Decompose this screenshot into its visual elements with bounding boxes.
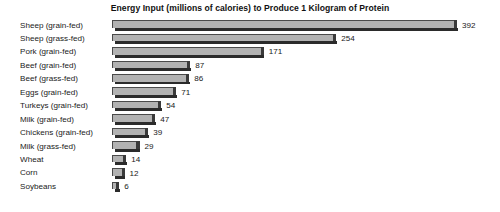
value-label: 29 [144,142,153,152]
bar-shadow [115,189,120,192]
bar-end-cap [454,20,457,28]
category-label: Eggs (grain-fed) [20,87,78,98]
bar-shadow [115,135,149,138]
chart-row: Chickens (grain-fed)39 [0,127,500,140]
value-label: 71 [181,88,190,98]
chart-row: Milk (grass-fed)29 [0,140,500,153]
value-label: 87 [195,61,204,71]
bar-end-cap [116,182,119,190]
bar [112,128,149,139]
chart-row: Soybeans6 [0,180,500,193]
chart-row: Corn12 [0,167,500,180]
bar [112,74,190,85]
value-label: 392 [462,21,476,31]
bar-shadow [115,82,190,85]
category-label: Wheat [20,154,43,165]
bar-face [112,101,159,109]
category-label: Beef (grain-fed) [20,60,76,71]
category-label: Chickens (grain-fed) [20,127,93,138]
chart-row: Turkeys (grain-fed)54 [0,100,500,113]
value-label: 254 [341,34,355,44]
value-label: 6 [124,182,129,192]
category-label: Turkeys (grain-fed) [20,100,88,111]
bar-end-cap [152,114,155,122]
bar-end-cap [333,34,336,42]
bar-shadow [115,149,140,152]
bar-end-cap [123,155,126,163]
bar-face [112,34,334,42]
bar [112,87,177,98]
chart-row: Eggs (grain-fed)71 [0,86,500,99]
bar-shadow [115,55,265,58]
bar-face [112,20,455,28]
bar-shadow [115,41,337,44]
chart-row: Sheep (grain-fed)392 [0,19,500,32]
bar [112,47,265,58]
bar [112,141,140,152]
chart-row: Beef (grain-fed)87 [0,59,500,72]
bar-shadow [115,108,162,111]
bar [112,155,127,166]
bar-face [112,141,137,149]
value-label: 14 [131,155,140,165]
category-label: Milk (grass-fed) [20,141,76,152]
chart-row: Beef (grass-fed)86 [0,73,500,86]
bar [112,114,156,125]
value-label: 86 [194,74,203,84]
value-label: 39 [153,128,162,138]
bar [112,101,162,112]
bar-shadow [115,28,458,31]
bar-face [112,47,262,55]
value-label: 47 [160,115,169,125]
chart-row: Wheat14 [0,154,500,167]
category-label: Sheep (grain-fed) [20,20,83,31]
bar [112,61,191,72]
category-label: Corn [20,167,38,178]
category-label: Beef (grass-fed) [20,73,78,84]
bar-end-cap [186,74,189,82]
bar [112,168,126,179]
category-label: Pork (grain-fed) [20,46,76,57]
bar-end-cap [261,47,264,55]
bar-end-cap [173,87,176,95]
bar-shadow [115,176,126,179]
chart-row: Pork (grain-fed)171 [0,46,500,59]
bar-face [112,74,187,82]
bar-face [112,87,174,95]
value-label: 12 [130,169,139,179]
category-label: Soybeans [20,181,56,192]
bar-shadow [115,68,191,71]
bar [112,34,337,45]
category-label: Sheep (grass-fed) [20,33,85,44]
bar-face [112,61,188,69]
bar-end-cap [122,168,125,176]
bar-shadow [115,122,156,125]
chart-row: Sheep (grass-fed)254 [0,32,500,45]
bar-face [112,114,153,122]
chart-row: Milk (grain-fed)47 [0,113,500,126]
bar-face [112,128,146,136]
bar [112,20,458,31]
plot-area: Sheep (grain-fed)392Sheep (grass-fed)254… [0,19,500,209]
category-label: Milk (grain-fed) [20,114,74,125]
chart-title: Energy Input (millions of calories) to P… [0,3,500,13]
bar [112,182,120,193]
value-label: 54 [166,101,175,111]
bar-shadow [115,95,177,98]
value-label: 171 [269,47,283,57]
bar-end-cap [158,101,161,109]
bar-chart: Energy Input (millions of calories) to P… [0,0,500,212]
bar-shadow [115,162,127,165]
bar-end-cap [187,61,190,69]
bar-end-cap [136,141,139,149]
bar-end-cap [145,128,148,136]
